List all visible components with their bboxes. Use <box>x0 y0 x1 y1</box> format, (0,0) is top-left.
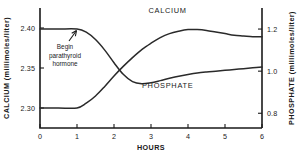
chart-container: 01234562.402.352.301.21.00.8CALCIUMPHOSP… <box>0 0 301 155</box>
annotation-line: Begin <box>57 43 74 51</box>
x-tick-label: 6 <box>260 132 264 141</box>
y-axis-title-right: PHOSPHATE (millimoles/liter) <box>287 11 296 125</box>
curves-layer <box>40 29 262 109</box>
y-tick-label-right: 1.2 <box>267 25 277 34</box>
y-tick-label-left: 2.35 <box>21 64 35 73</box>
series-label-phosphate: PHOSPHATE <box>142 81 193 90</box>
x-tick-label: 2 <box>112 132 116 141</box>
series-label-calcium: CALCIUM <box>149 6 187 15</box>
x-tick-label: 4 <box>186 132 190 141</box>
y-tick-label-left: 2.30 <box>21 104 35 113</box>
parathyroid-hormone-calcium-phosphate-chart: 01234562.402.352.301.21.00.8CALCIUMPHOSP… <box>0 0 301 155</box>
y-tick-label-left: 2.40 <box>21 24 35 33</box>
series-curve-calcium <box>40 29 262 108</box>
x-axis-title: HOURS <box>137 143 165 152</box>
labels-layer: 01234562.402.352.301.21.00.8CALCIUMPHOSP… <box>2 6 296 152</box>
x-tick-label: 3 <box>149 132 153 141</box>
x-tick-label: 1 <box>75 132 79 141</box>
y-tick-label-right: 0.8 <box>267 109 277 118</box>
annotation-line: hormone <box>52 60 78 67</box>
x-tick-label: 5 <box>223 132 227 141</box>
annotation-line: parathyroid <box>49 52 81 60</box>
y-axis-title-left: CALCIUM (millimoles/liter) <box>2 17 11 119</box>
y-tick-label-right: 1.0 <box>267 67 277 76</box>
x-tick-label: 0 <box>38 132 42 141</box>
axes-layer <box>40 8 262 128</box>
left-and-bottom-axis <box>40 8 262 128</box>
